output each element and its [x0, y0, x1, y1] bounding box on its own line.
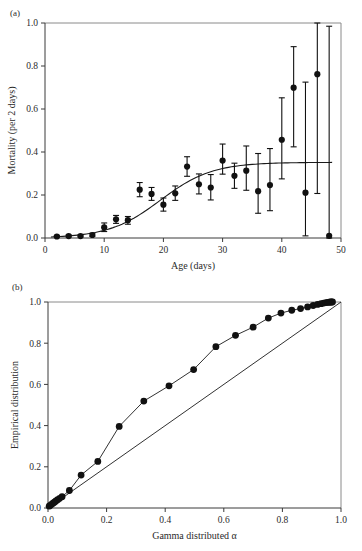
- data-marker: [291, 85, 297, 91]
- data-marker: [66, 487, 73, 494]
- data-marker: [166, 382, 173, 389]
- data-marker: [279, 137, 285, 143]
- panel-a-ytick-label: 0.4: [26, 147, 38, 157]
- panel-b-xtick-label: 0.8: [276, 515, 288, 525]
- data-marker: [243, 168, 249, 174]
- panel-a-datapoint-group: [326, 26, 332, 239]
- panel-a-ytick-label: 0.8: [26, 61, 38, 71]
- data-marker: [288, 307, 295, 314]
- data-marker: [326, 233, 332, 239]
- data-marker: [54, 233, 60, 239]
- panel-b-qq-chart: (b)0.00.20.40.60.81.00.00.20.40.60.81.0G…: [0, 270, 362, 551]
- data-marker: [329, 299, 336, 306]
- panel-a-ytick-label: 0.6: [26, 104, 38, 114]
- panel-a-datapoint-group: [137, 183, 143, 197]
- data-marker: [77, 233, 83, 239]
- panel-a-datapoint-group: [291, 47, 297, 147]
- panel-a-mortality-chart: (a)0.00.20.40.60.81.001020304050Age (day…: [0, 0, 362, 275]
- panel-b-xtick-label: 0.2: [101, 515, 113, 525]
- data-marker: [208, 184, 214, 190]
- data-marker: [314, 71, 320, 77]
- data-marker: [196, 181, 202, 187]
- panel-a-datapoint-group: [255, 154, 261, 214]
- panel-a-datapoint-group: [184, 157, 190, 177]
- data-marker: [78, 472, 85, 479]
- panel-b-connecting-line: [49, 302, 332, 506]
- data-marker: [265, 315, 272, 322]
- data-marker: [231, 173, 237, 179]
- data-marker: [220, 158, 226, 164]
- data-marker: [94, 458, 101, 465]
- panel-a-ytick-label: 0.0: [26, 233, 38, 243]
- panel-a-datapoint-group: [125, 217, 131, 225]
- panel-b-yaxis-title: Empirical distribution: [9, 361, 20, 449]
- panel-a-svg: (a)0.00.20.40.60.81.001020304050Age (day…: [0, 0, 362, 275]
- panel-a-xtick-label: 10: [99, 245, 109, 255]
- data-marker: [113, 216, 119, 222]
- data-marker: [267, 182, 273, 188]
- panel-a-datapoint-group: [77, 233, 83, 239]
- panel-a-datapoint-group: [314, 23, 320, 193]
- panel-a-yaxis-title: Mortality (per 2 days): [6, 86, 18, 174]
- panel-a-ytick-label: 1.0: [26, 18, 38, 28]
- panel-a-datapoint-group: [113, 215, 119, 223]
- data-marker: [101, 224, 107, 230]
- panel-b-xtick-label: 0.4: [159, 515, 171, 525]
- panel-b-xtick-label: 1.0: [335, 515, 347, 525]
- panel-b-ytick-label: 0.6: [29, 380, 41, 390]
- data-marker: [160, 202, 166, 208]
- data-marker: [250, 324, 257, 331]
- panel-a-axes: [45, 23, 341, 238]
- data-marker: [140, 398, 147, 405]
- panel-b-svg: (b)0.00.20.40.60.81.00.00.20.40.60.81.0G…: [0, 270, 362, 551]
- panel-a-datapoint-group: [220, 144, 226, 174]
- data-marker: [59, 493, 66, 500]
- panel-a-datapoint-group: [208, 175, 214, 200]
- data-marker: [137, 187, 143, 193]
- data-marker: [125, 217, 131, 223]
- panel-a-datapoint-group: [302, 82, 308, 236]
- panel-a-datapoint-group: [279, 98, 285, 179]
- panel-a-datapoint-group: [148, 187, 154, 200]
- panel-b-xtick-label: 0.0: [42, 515, 54, 525]
- panel-a-frame: [45, 23, 341, 238]
- panel-b-label: (b): [12, 282, 23, 292]
- panel-a-label: (a): [10, 8, 20, 18]
- panel-b-xaxis-title: Gamma distributed α: [152, 530, 237, 541]
- data-marker: [116, 423, 123, 430]
- data-marker: [255, 188, 261, 194]
- panel-b-ytick-label: 1.0: [29, 297, 41, 307]
- data-marker: [172, 190, 178, 196]
- panel-a-xtick-label: 0: [43, 245, 48, 255]
- panel-a-datapoint-group: [66, 233, 72, 239]
- data-marker: [302, 190, 308, 196]
- data-marker: [212, 343, 219, 350]
- data-marker: [89, 232, 95, 238]
- panel-a-datapoint-group: [89, 232, 95, 238]
- panel-a-datapoint-group: [54, 233, 60, 239]
- data-marker: [148, 191, 154, 197]
- data-marker: [190, 366, 197, 373]
- panel-a-xtick-label: 20: [159, 245, 169, 255]
- panel-a-xtick-label: 30: [218, 245, 228, 255]
- panel-a-ytick-label: 0.2: [26, 190, 38, 200]
- data-marker: [297, 305, 304, 312]
- panel-b-ytick-label: 0.2: [29, 462, 41, 472]
- panel-a-datapoint-group: [243, 146, 249, 190]
- panel-b-xtick-label: 0.6: [218, 515, 230, 525]
- panel-a-xtick-label: 40: [277, 245, 287, 255]
- figure-container: (a)0.00.20.40.60.81.001020304050Age (day…: [0, 0, 362, 551]
- panel-a-xtick-label: 50: [336, 245, 346, 255]
- panel-b-reference-line: [48, 302, 341, 508]
- panel-a-fit-curve: [51, 162, 332, 237]
- data-marker: [184, 164, 190, 170]
- data-marker: [278, 310, 285, 317]
- panel-a-datapoint-group: [267, 149, 273, 211]
- data-marker: [66, 233, 72, 239]
- panel-b-ytick-label: 0.8: [29, 339, 41, 349]
- panel-b-ytick-label: 0.4: [29, 421, 41, 431]
- data-marker: [232, 332, 239, 339]
- panel-b-ytick-label: 0.0: [29, 503, 41, 513]
